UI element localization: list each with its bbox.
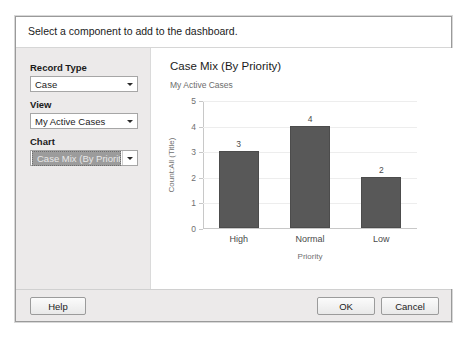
field-group-chart: Chart Case Mix (By Priority): [30, 136, 138, 166]
dialog-body: Record Type Case View My Active Cases Ch…: [16, 48, 451, 289]
view-label: View: [30, 99, 138, 110]
y-axis-tick-label: 1: [191, 198, 196, 208]
x-axis-tick-label: Normal: [295, 234, 324, 244]
bar-value-label: 3: [236, 139, 241, 149]
y-axis-tick-label: 4: [191, 122, 196, 132]
y-axis-tick: [199, 101, 203, 102]
bar[interactable]: [290, 126, 330, 228]
y-axis-tick: [199, 203, 203, 204]
field-group-record-type: Record Type Case: [30, 62, 138, 92]
y-axis-tick-label: 0: [191, 224, 196, 234]
y-axis-tick-label: 2: [191, 173, 196, 183]
chart-subtitle: My Active Cases: [170, 80, 233, 90]
x-axis-tick-label: High: [229, 234, 248, 244]
bar-value-label: 4: [308, 114, 313, 124]
view-value: My Active Cases: [31, 116, 123, 127]
dialog-footer: Help OK Cancel: [16, 289, 451, 321]
cancel-button[interactable]: Cancel: [381, 297, 439, 315]
ok-button[interactable]: OK: [317, 297, 375, 315]
plot-frame: 012345 3High4Normal2Low: [203, 101, 417, 229]
x-axis-tick-label: Low: [373, 234, 390, 244]
chevron-down-icon[interactable]: [122, 151, 137, 165]
chevron-down-icon[interactable]: [123, 77, 137, 91]
field-group-view: View My Active Cases: [30, 99, 138, 129]
y-axis-line: [203, 101, 204, 229]
add-component-dialog: Select a component to add to the dashboa…: [15, 16, 452, 322]
help-button[interactable]: Help: [30, 297, 86, 315]
bar-value-label: 2: [379, 165, 384, 175]
y-axis-title: Count:All (Title): [167, 101, 177, 229]
chart-label: Chart: [30, 136, 138, 147]
y-axis-tick: [199, 229, 203, 230]
chart-dropdown[interactable]: Case Mix (By Priority): [30, 150, 138, 166]
record-type-dropdown[interactable]: Case: [30, 76, 138, 92]
y-axis-tick: [199, 127, 203, 128]
chart-value: Case Mix (By Priority): [32, 151, 121, 166]
chart-plot-area: Count:All (Title) 012345 3High4Normal2Lo…: [167, 97, 437, 272]
y-axis-tick-label: 3: [191, 147, 196, 157]
view-dropdown[interactable]: My Active Cases: [30, 113, 138, 129]
chart-preview-panel: Case Mix (By Priority) My Active Cases C…: [150, 48, 453, 289]
gridline: [203, 101, 417, 102]
record-type-label: Record Type: [30, 62, 138, 73]
chart-title: Case Mix (By Priority): [170, 60, 281, 72]
y-axis-tick: [199, 152, 203, 153]
bar[interactable]: [361, 177, 401, 228]
x-axis-line: [203, 228, 417, 229]
config-panel: Record Type Case View My Active Cases Ch…: [16, 48, 150, 289]
instruction-text: Select a component to add to the dashboa…: [28, 25, 238, 37]
record-type-value: Case: [31, 79, 123, 90]
y-axis-tick-label: 5: [191, 96, 196, 106]
instruction-bar: Select a component to add to the dashboa…: [16, 17, 451, 48]
x-axis-title: Priority: [203, 252, 417, 261]
chevron-down-icon[interactable]: [123, 114, 137, 128]
y-axis-tick: [199, 178, 203, 179]
bar[interactable]: [219, 151, 259, 228]
